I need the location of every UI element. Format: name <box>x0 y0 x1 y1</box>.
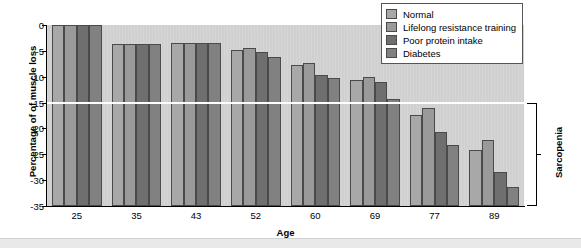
y-tick-label: -5 <box>18 45 44 56</box>
sarcopenia-bracket <box>527 103 537 206</box>
y-tick-mark <box>42 128 46 129</box>
bar[interactable] <box>375 82 387 206</box>
y-tick-label: -20 <box>18 123 44 134</box>
y-tick-mark <box>42 77 46 78</box>
bar[interactable] <box>268 57 280 206</box>
bar-group <box>52 25 102 206</box>
x-axis-line <box>46 206 525 207</box>
bar[interactable] <box>507 187 519 206</box>
legend-swatch <box>386 22 397 32</box>
x-axis-title: Age <box>47 227 524 238</box>
y-tick-label: -10 <box>18 71 44 82</box>
bar[interactable] <box>303 63 315 206</box>
y-tick-label: 0 <box>18 20 44 31</box>
bar[interactable] <box>171 43 183 206</box>
y-tick-mark <box>42 154 46 155</box>
bar[interactable] <box>89 25 101 206</box>
bar[interactable] <box>363 77 375 206</box>
bar[interactable] <box>208 43 220 206</box>
x-tick-label: 89 <box>474 210 514 221</box>
bar[interactable] <box>315 75 327 206</box>
bar[interactable] <box>77 25 89 206</box>
x-tick-label: 43 <box>176 210 216 221</box>
y-tick-mark <box>42 180 46 181</box>
bar[interactable] <box>291 65 303 206</box>
sarcopenia-bracket-tick <box>537 154 541 155</box>
bar[interactable] <box>256 52 268 206</box>
legend-label: Normal <box>403 9 434 20</box>
y-tick-label: -30 <box>18 175 44 186</box>
legend-item[interactable]: Poor protein intake <box>386 34 516 46</box>
bar-group <box>231 25 281 206</box>
legend-label: Diabetes <box>403 48 441 59</box>
legend-item[interactable]: Lifelong resistance training <box>386 21 516 33</box>
y-tick-mark <box>42 25 46 26</box>
bar-group <box>291 25 341 206</box>
bar[interactable] <box>447 145 459 206</box>
y-axis-tick-labels: 0-5-10-15-20-25-30-35 <box>18 18 44 214</box>
legend-item[interactable]: Diabetes <box>386 47 516 59</box>
bar[interactable] <box>52 25 64 206</box>
legend-swatch <box>386 35 397 45</box>
x-tick-label: 52 <box>236 210 276 221</box>
bar[interactable] <box>231 50 243 206</box>
legend-label: Lifelong resistance training <box>403 22 516 33</box>
bar[interactable] <box>494 172 506 206</box>
chart-figure: Percentage of of muscle loss 0-5-10-15-2… <box>0 0 581 248</box>
bar[interactable] <box>435 132 447 206</box>
bar[interactable] <box>136 44 148 206</box>
bar[interactable] <box>149 44 161 206</box>
legend-swatch <box>386 48 397 58</box>
bar-group <box>112 25 162 206</box>
bar[interactable] <box>328 78 340 206</box>
legend-label: Poor protein intake <box>403 35 483 46</box>
sarcopenia-label: Sarcopenia <box>553 93 564 213</box>
bar[interactable] <box>469 150 481 206</box>
y-tick-label: -35 <box>18 201 44 212</box>
bar[interactable] <box>124 44 136 206</box>
legend-swatch <box>386 9 397 19</box>
reference-line-minus-15 <box>47 102 524 104</box>
bar[interactable] <box>64 25 76 206</box>
y-tick-label: -25 <box>18 149 44 160</box>
bar-group <box>171 25 221 206</box>
bar[interactable] <box>196 43 208 206</box>
bar[interactable] <box>243 48 255 206</box>
x-tick-label: 35 <box>116 210 156 221</box>
page-bottom-strip <box>0 238 581 248</box>
bar[interactable] <box>482 140 494 206</box>
legend: NormalLifelong resistance trainingPoor p… <box>381 3 523 64</box>
y-tick-mark <box>42 103 46 104</box>
x-tick-label: 25 <box>57 210 97 221</box>
bar[interactable] <box>422 108 434 206</box>
x-tick-label: 60 <box>295 210 335 221</box>
legend-item[interactable]: Normal <box>386 8 516 20</box>
bar[interactable] <box>184 43 196 206</box>
bar[interactable] <box>387 99 399 206</box>
bar[interactable] <box>410 115 422 206</box>
x-tick-label: 69 <box>355 210 395 221</box>
bar[interactable] <box>112 44 124 206</box>
y-tick-label: -15 <box>18 97 44 108</box>
y-tick-mark <box>42 51 46 52</box>
y-tick-mark <box>42 206 46 207</box>
x-tick-label: 77 <box>415 210 455 221</box>
bar[interactable] <box>350 80 362 206</box>
